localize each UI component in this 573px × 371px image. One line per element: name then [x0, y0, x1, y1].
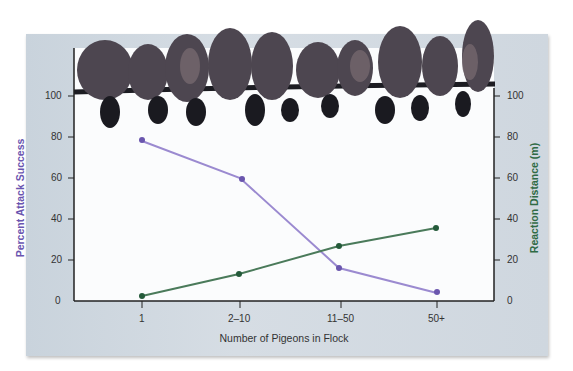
y-tick-right-0: 0 [507, 295, 513, 306]
attack-success-markers [139, 137, 440, 295]
x-ticks [142, 301, 437, 308]
x-tick-11-50: 11–50 [327, 313, 354, 324]
pigeons-decoration [74, 20, 495, 128]
y-tick-left-80: 80 [51, 131, 62, 142]
y-axis-label-left: Percent Attack Success [14, 139, 26, 258]
y-tick-left-0: 0 [55, 295, 61, 306]
x-axis-label: Number of Pigeons in Flock [220, 332, 349, 344]
y-axis-label-right: Reaction Distance (m) [528, 143, 540, 253]
y-tick-left-20: 20 [51, 254, 62, 265]
x-tick-2-10: 2–10 [228, 313, 250, 324]
y-tick-left-60: 60 [51, 172, 62, 183]
y-tick-right-60: 60 [507, 172, 518, 183]
series-reaction-distance [142, 228, 436, 296]
y-tick-left-40: 40 [51, 213, 62, 224]
x-tick-1: 1 [139, 313, 145, 324]
y-ticks [68, 96, 500, 260]
y-tick-right-80: 80 [507, 131, 518, 142]
y-tick-right-40: 40 [507, 213, 518, 224]
chart-svg [0, 0, 573, 371]
y-tick-right-20: 20 [507, 254, 518, 265]
x-tick-50-plus: 50+ [428, 313, 445, 324]
y-tick-left-100: 100 [45, 90, 62, 101]
series-attack-success [142, 141, 437, 293]
y-tick-right-100: 100 [507, 90, 524, 101]
